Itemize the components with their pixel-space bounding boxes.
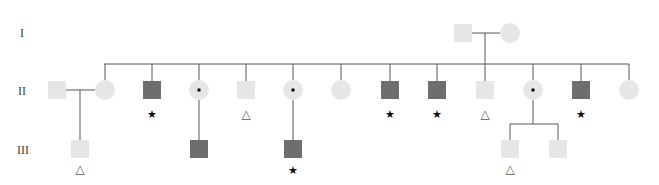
carrier-dot-icon	[291, 88, 295, 92]
individual-II-9-male	[476, 81, 494, 99]
individual-III-5-male	[549, 140, 567, 158]
individual-I-1-male	[454, 24, 472, 42]
triangle-icon: △	[75, 162, 85, 176]
star-icon: ★	[288, 164, 298, 177]
individual-II-4-male	[237, 81, 255, 99]
generation-label-1: I	[20, 26, 24, 40]
individual-III-2-male-affected	[190, 140, 208, 158]
carrier-dot-icon	[197, 88, 201, 92]
star-icon: ★	[576, 108, 586, 121]
individual-I-2-female	[500, 23, 520, 43]
star-icon: ★	[147, 108, 157, 121]
individual-II-7-male-affected	[381, 81, 399, 99]
individual-II-12-female	[619, 80, 639, 100]
individual-II-2-male-affected	[143, 81, 161, 99]
individual-II-spouse-male	[48, 81, 66, 99]
generation-label-2: II	[18, 84, 26, 98]
pedigree-chart: I II III ★	[0, 0, 659, 185]
triangle-icon: △	[505, 162, 515, 176]
individual-II-6-female	[331, 80, 351, 100]
individual-III-1-male	[71, 140, 89, 158]
star-icon: ★	[432, 108, 442, 121]
carrier-dot-icon	[531, 88, 535, 92]
generation-label-3: III	[17, 143, 29, 157]
triangle-icon: △	[241, 107, 251, 121]
individual-II-1-female	[95, 80, 115, 100]
star-icon: ★	[385, 108, 395, 121]
individual-III-3-male-affected	[284, 140, 302, 158]
individual-III-4-male	[501, 140, 519, 158]
individual-II-8-male-affected	[428, 81, 446, 99]
individual-II-11-male-affected	[572, 81, 590, 99]
triangle-icon: △	[480, 107, 490, 121]
